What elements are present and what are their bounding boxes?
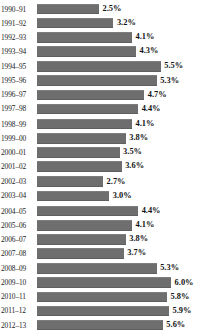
bar bbox=[37, 46, 136, 57]
category-label: 1991–92 bbox=[0, 19, 37, 28]
bar bbox=[37, 61, 161, 72]
bar-row: 2004–054.4% bbox=[0, 204, 207, 218]
bar bbox=[37, 191, 109, 202]
bar bbox=[37, 147, 120, 158]
bar-row: 2000–013.5% bbox=[0, 145, 207, 159]
bar-track: 2.7% bbox=[37, 175, 207, 189]
category-label: 2000–01 bbox=[0, 148, 37, 157]
bar-track: 3.7% bbox=[37, 246, 207, 260]
bar-track: 2.5% bbox=[37, 2, 207, 16]
bar-row: 1990–912.5% bbox=[0, 2, 207, 16]
bar-track: 3.5% bbox=[37, 145, 207, 159]
bar-row: 1994–955.5% bbox=[0, 60, 207, 74]
bar-track: 5.5% bbox=[37, 60, 207, 74]
bar-track: 3.2% bbox=[37, 16, 207, 30]
bar bbox=[37, 90, 144, 101]
category-label: 1998–99 bbox=[0, 120, 37, 129]
bar-row: 1996–974.7% bbox=[0, 88, 207, 102]
bar bbox=[37, 306, 169, 317]
bar-row: 2012–135.6% bbox=[0, 318, 207, 332]
category-label: 1990–91 bbox=[0, 5, 37, 14]
bar-row: 2008–095.3% bbox=[0, 262, 207, 276]
bar-row: 2006–073.8% bbox=[0, 232, 207, 246]
bar-row: 2001–023.6% bbox=[0, 159, 207, 173]
category-label: 2009–10 bbox=[0, 278, 37, 287]
bar-track: 5.3% bbox=[37, 74, 207, 88]
bar-value-label: 3.0% bbox=[113, 192, 132, 200]
bar-track: 4.4% bbox=[37, 102, 207, 116]
bar-value-label: 4.1% bbox=[135, 33, 154, 41]
bar-row: 2005–064.1% bbox=[0, 218, 207, 232]
bar-row: 1992–934.1% bbox=[0, 30, 207, 44]
bar-value-label: 4.4% bbox=[142, 105, 161, 113]
bar-value-label: 4.1% bbox=[135, 221, 154, 229]
category-label: 2012–13 bbox=[0, 321, 37, 330]
bar-track: 4.3% bbox=[37, 44, 207, 58]
bar-value-label: 3.7% bbox=[127, 249, 146, 257]
category-label: 2002–03 bbox=[0, 177, 37, 186]
bar bbox=[37, 161, 122, 172]
bar bbox=[37, 133, 126, 144]
bar-track: 6.0% bbox=[37, 276, 207, 290]
category-label: 1992–93 bbox=[0, 33, 37, 42]
bar-row: 1997–984.4% bbox=[0, 102, 207, 116]
bar-row: 1995–965.3% bbox=[0, 74, 207, 88]
category-label: 2004–05 bbox=[0, 207, 37, 216]
bar-row: 2009–106.0% bbox=[0, 276, 207, 290]
category-label: 2007–08 bbox=[0, 249, 37, 258]
bar-row: 1998–994.1% bbox=[0, 117, 207, 131]
bar-row: 2007–083.7% bbox=[0, 246, 207, 260]
bar-row: 2002–032.7% bbox=[0, 175, 207, 189]
bar-value-label: 2.7% bbox=[107, 178, 126, 186]
bar-track: 5.3% bbox=[37, 262, 207, 276]
bar-value-label: 5.8% bbox=[170, 293, 189, 301]
bar-value-label: 4.3% bbox=[140, 47, 159, 55]
category-label: 1994–95 bbox=[0, 62, 37, 71]
bar bbox=[37, 320, 163, 331]
bar-value-label: 5.5% bbox=[164, 62, 183, 70]
bar-value-label: 2.5% bbox=[103, 5, 122, 13]
bar-row: 2010–115.8% bbox=[0, 290, 207, 304]
category-label: 2010–11 bbox=[0, 292, 37, 301]
category-label: 1999–00 bbox=[0, 134, 37, 143]
bar-row: 1991–923.2% bbox=[0, 16, 207, 30]
bar-value-label: 4.7% bbox=[148, 91, 167, 99]
bar-row: 1993–944.3% bbox=[0, 44, 207, 58]
bar bbox=[37, 206, 138, 217]
bar-value-label: 3.6% bbox=[125, 162, 144, 170]
bar bbox=[37, 4, 99, 15]
bar-track: 3.8% bbox=[37, 131, 207, 145]
bar-track: 4.1% bbox=[37, 117, 207, 131]
bar-track: 3.8% bbox=[37, 232, 207, 246]
category-label: 2001–02 bbox=[0, 162, 37, 171]
bar bbox=[37, 234, 126, 245]
bar bbox=[37, 263, 157, 274]
bar-track: 4.1% bbox=[37, 30, 207, 44]
bar-value-label: 5.3% bbox=[160, 264, 179, 272]
bar-track: 5.8% bbox=[37, 290, 207, 304]
category-label: 2011–12 bbox=[0, 306, 37, 315]
bar-value-label: 5.3% bbox=[160, 77, 179, 85]
bar bbox=[37, 292, 167, 303]
bar-value-label: 4.4% bbox=[142, 207, 161, 215]
category-label: 1996–97 bbox=[0, 90, 37, 99]
bar-track: 4.1% bbox=[37, 218, 207, 232]
bar bbox=[37, 104, 138, 115]
bar bbox=[37, 32, 132, 43]
bar-value-label: 5.6% bbox=[166, 321, 185, 329]
category-label: 1997–98 bbox=[0, 104, 37, 113]
bar-value-label: 3.2% bbox=[117, 19, 136, 27]
bar-row: 2011–125.9% bbox=[0, 304, 207, 318]
category-label: 2006–07 bbox=[0, 235, 37, 244]
bar-track: 3.0% bbox=[37, 189, 207, 203]
category-label: 2003–04 bbox=[0, 191, 37, 200]
bar bbox=[37, 18, 113, 29]
bar bbox=[37, 248, 124, 259]
bar bbox=[37, 220, 132, 231]
category-label: 1993–94 bbox=[0, 47, 37, 56]
category-label: 2008–09 bbox=[0, 264, 37, 273]
bar-row: 2003–043.0% bbox=[0, 189, 207, 203]
bar-track: 5.6% bbox=[37, 318, 207, 332]
bar bbox=[37, 277, 171, 288]
